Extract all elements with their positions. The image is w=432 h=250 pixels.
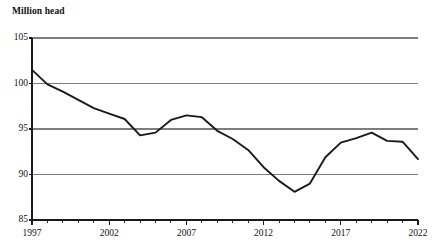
data-series-group <box>32 70 418 192</box>
x-tick-marks-group <box>32 220 418 225</box>
x-axis-tick-label-2017: 2017 <box>321 228 361 238</box>
y-axis-tick-label-100: 100 <box>4 78 28 88</box>
line-chart: Million head 859095100105 19972002200720… <box>0 0 432 250</box>
x-axis-tick-label-1997: 1997 <box>12 228 52 238</box>
y-axis-tick-label-105: 105 <box>4 32 28 42</box>
x-axis-tick-label-2022: 2022 <box>398 228 432 238</box>
x-axis-tick-label-2002: 2002 <box>89 228 129 238</box>
chart-plot-area <box>0 0 432 250</box>
x-axis-tick-label-2012: 2012 <box>244 228 284 238</box>
y-axis-tick-label-85: 85 <box>4 214 28 224</box>
data-line-series-0 <box>32 70 418 192</box>
y-axis-tick-label-95: 95 <box>4 123 28 133</box>
x-axis-tick-label-2007: 2007 <box>166 228 206 238</box>
y-axis-tick-label-90: 90 <box>4 169 28 179</box>
